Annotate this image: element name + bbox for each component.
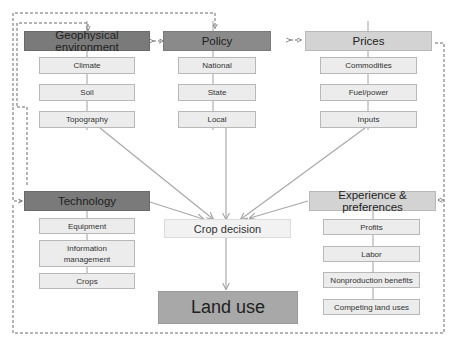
node-profits: Profits	[323, 219, 420, 235]
node-competing-land-uses: Competing land uses	[323, 299, 420, 315]
node-fuel-power: Fuel/power	[320, 84, 417, 101]
node-experience-preferences: Experience & preferences	[309, 191, 436, 211]
node-climate: Climate	[39, 57, 135, 74]
node-geophysical-environment: Geophysical environment	[24, 31, 150, 51]
node-policy: Policy	[163, 31, 271, 51]
node-topography: Topography	[39, 111, 135, 128]
node-crops: Crops	[39, 273, 135, 289]
node-labor: Labor	[323, 246, 420, 262]
node-state: State	[178, 84, 256, 101]
node-crop-decision: Crop decision	[164, 219, 291, 238]
node-local: Local	[178, 111, 256, 128]
node-prices: Prices	[305, 31, 432, 51]
node-land-use: Land use	[158, 291, 298, 324]
node-commodities: Commodities	[320, 57, 417, 74]
node-equipment: Equipment	[39, 218, 135, 234]
node-national: National	[178, 57, 256, 74]
node-information-management: Information management	[39, 240, 135, 267]
node-soil: Soil	[39, 84, 135, 101]
node-technology: Technology	[24, 191, 150, 211]
node-label: Geophysical environment	[25, 29, 149, 53]
node-nonproduction-benefits: Nonproduction benefits	[323, 272, 420, 288]
node-inputs: Inputs	[320, 111, 417, 128]
